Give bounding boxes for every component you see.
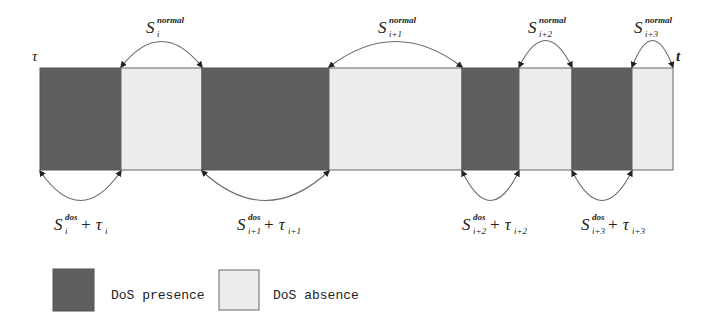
svg-text:normal: normal (539, 15, 567, 25)
svg-text:dos: dos (65, 212, 78, 222)
segment-dos-presence (462, 68, 519, 170)
arc-normal-i (121, 42, 202, 68)
legend-swatch-dos-absence (219, 270, 259, 310)
arc-dos-i3 (572, 171, 632, 201)
legend-swatch-dos-presence (53, 269, 94, 311)
dos-timeline-diagram: τ t S normal i S normal i+1 S normal (0, 0, 713, 331)
label-normal-i3: S normal i+3 (634, 15, 673, 39)
normal-period-arcs (121, 41, 673, 68)
svg-text:S: S (581, 215, 590, 234)
arc-normal-i3 (632, 41, 673, 68)
svg-text:i+3: i+3 (645, 29, 659, 39)
svg-text:i+3: i+3 (592, 226, 606, 236)
svg-text:+ τ: + τ (80, 215, 103, 234)
svg-text:i: i (157, 29, 160, 39)
svg-text:S: S (237, 215, 246, 234)
legend-label-dos-presence: DoS presence (111, 288, 205, 303)
segment-dos-presence (40, 68, 121, 170)
svg-text:i+2: i+2 (539, 29, 553, 39)
svg-text:i: i (65, 226, 68, 236)
svg-text:+ τ: + τ (607, 215, 630, 234)
segment-dos-absence (329, 68, 462, 170)
svg-text:dos: dos (248, 212, 261, 222)
segment-dos-absence (519, 68, 572, 170)
svg-text:normal: normal (389, 15, 417, 25)
svg-text:i+3: i+3 (632, 226, 646, 236)
svg-text:dos: dos (473, 212, 486, 222)
label-dos-i1: S dos i+1 + τ i+1 (237, 212, 301, 236)
arc-dos-i1 (202, 171, 329, 201)
svg-text:normal: normal (157, 15, 185, 25)
label-dos-i2: S dos i+2 + τ i+2 (462, 212, 528, 236)
svg-text:S: S (462, 215, 471, 234)
segment-dos-presence (202, 68, 329, 170)
svg-text:i+2: i+2 (473, 226, 487, 236)
legend: DoS presence DoS absence (53, 269, 359, 311)
svg-text:i+1: i+1 (288, 226, 301, 236)
axis-start-label: τ (32, 48, 38, 64)
label-dos-i3: S dos i+3 + τ i+3 (581, 212, 646, 236)
segment-dos-presence (572, 68, 632, 170)
svg-text:+ τ: + τ (263, 215, 286, 234)
svg-text:S: S (528, 18, 537, 37)
axis-end-label: t (676, 48, 681, 64)
svg-text:+ τ: + τ (489, 215, 512, 234)
arc-dos-i2 (462, 171, 519, 201)
segment-dos-absence (632, 68, 673, 170)
svg-text:S: S (378, 18, 387, 37)
svg-text:dos: dos (592, 212, 605, 222)
arc-dos-i (40, 171, 121, 201)
label-dos-i: S dos i + τ i (54, 212, 108, 236)
svg-text:S: S (634, 18, 643, 37)
svg-text:i+1: i+1 (389, 29, 402, 39)
label-normal-i: S normal i (146, 15, 185, 39)
label-normal-i2: S normal i+2 (528, 15, 567, 39)
svg-text:i: i (105, 226, 108, 236)
dos-period-arcs (40, 171, 632, 201)
svg-text:i+2: i+2 (514, 226, 528, 236)
timeline-segments (40, 68, 673, 170)
arc-normal-i1 (329, 42, 462, 68)
svg-text:S: S (54, 215, 63, 234)
svg-text:i+1: i+1 (248, 226, 261, 236)
label-normal-i1: S normal i+1 (378, 15, 417, 39)
svg-text:normal: normal (645, 15, 673, 25)
segment-dos-absence (121, 68, 202, 170)
arc-normal-i2 (519, 41, 572, 68)
legend-label-dos-absence: DoS absence (273, 288, 359, 303)
svg-text:S: S (146, 18, 155, 37)
